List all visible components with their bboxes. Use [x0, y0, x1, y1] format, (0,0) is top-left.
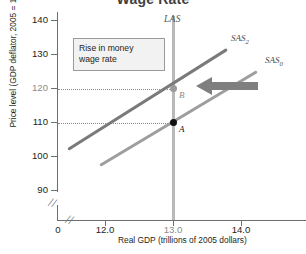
point-b-label: B	[179, 90, 185, 100]
y-tick-label-130: 130	[10, 48, 48, 59]
sas0-label: SAS0	[265, 55, 283, 67]
shift-arrow-icon	[196, 76, 258, 96]
chart-title: Wage Rate	[0, 0, 306, 7]
x-axis-label: Real GDP (trillions of 2005 dollars)	[118, 235, 306, 245]
x-tick-label-14: 14.0	[220, 224, 262, 235]
y-tick-label-110: 110	[10, 116, 48, 127]
las-label: LAS	[164, 14, 181, 24]
y-tick-130	[51, 54, 57, 55]
y-tick-label-90: 90	[10, 184, 48, 195]
y-axis-line	[57, 12, 58, 192]
reference-line-120	[58, 89, 174, 90]
chart-figure: Wage Rate Price level (GDP deflator, 200…	[0, 0, 306, 254]
x-tick-label-12: 12.0	[84, 224, 126, 235]
y-tick-label-140: 140	[10, 14, 48, 25]
y-tick-110	[51, 122, 57, 123]
note-line-2: wage rate	[79, 54, 159, 65]
y-tick-label-120: 120	[10, 82, 48, 93]
reference-line-110	[58, 123, 174, 124]
point-a-marker	[170, 119, 177, 126]
y-tick-100	[51, 156, 57, 157]
x-axis-line	[57, 220, 306, 221]
sas2-label: SAS2	[231, 33, 249, 45]
y-axis-line-lower	[57, 205, 58, 221]
annotation-note-box: Rise in money wage rate	[73, 38, 165, 71]
y-tick-120	[51, 88, 57, 89]
point-a-label: A	[179, 124, 185, 134]
y-tick-90	[51, 190, 57, 191]
y-tick-label-100: 100	[10, 150, 48, 161]
x-tick-label-0: 0	[37, 224, 79, 235]
note-line-1: Rise in money	[79, 43, 159, 54]
x-tick-label-13: 13.0	[152, 224, 194, 235]
y-tick-140	[51, 20, 57, 21]
point-b-marker	[170, 85, 177, 92]
